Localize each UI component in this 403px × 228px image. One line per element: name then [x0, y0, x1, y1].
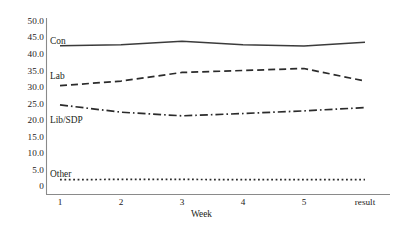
y-tick-label: 40.0	[28, 50, 44, 59]
line-chart: 05.010.015.020.025.030.035.040.045.050.0…	[0, 0, 403, 228]
y-tick-label: 10.0	[28, 149, 44, 158]
y-tick-label: 45.0	[28, 33, 44, 42]
series-line-lab	[60, 69, 365, 86]
series-lines	[60, 41, 365, 179]
series-label-lab: Lab	[50, 72, 65, 81]
x-axis-title: Week	[0, 210, 403, 219]
series-label-lib-sdp: Lib/SDP	[50, 116, 83, 125]
y-tick-label: 20.0	[28, 116, 44, 125]
x-tick-label: result	[355, 198, 375, 207]
series-label-other: Other	[50, 170, 71, 179]
y-tick-label: 25.0	[28, 100, 44, 109]
y-axis-tick-labels: 05.010.015.020.025.030.035.040.045.050.0	[0, 0, 44, 228]
y-tick-label: 35.0	[28, 67, 44, 76]
y-tick-label: 5.0	[32, 166, 44, 175]
y-tick-label: 15.0	[28, 133, 44, 142]
x-tick-label: 3	[180, 198, 185, 207]
series-line-lib-sdp	[60, 105, 365, 116]
y-tick-label: 30.0	[28, 83, 44, 92]
y-tick-label: 0	[39, 182, 44, 191]
x-tick-label: 1	[58, 198, 63, 207]
series-line-con	[60, 41, 365, 46]
x-tick-label: 5	[302, 198, 307, 207]
x-tick-label: 2	[119, 198, 124, 207]
x-tick-label: 4	[241, 198, 246, 207]
plot-area	[0, 0, 403, 228]
series-label-con: Con	[50, 37, 66, 46]
y-tick-label: 50.0	[28, 17, 44, 26]
